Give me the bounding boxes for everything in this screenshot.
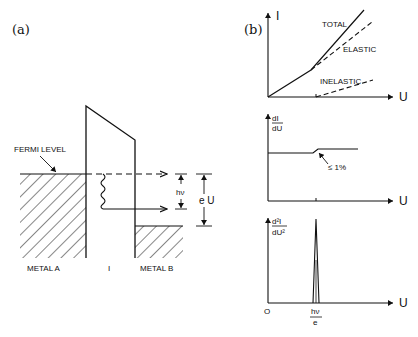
diagram-canvas: (a) FERMI LEVEL hν xyxy=(0,0,418,337)
iv-curve-chart: I U TOTAL ELASTIC INELASTIC xyxy=(268,9,408,104)
iv-y-label: I xyxy=(276,9,279,23)
didu-y-den: dU xyxy=(272,124,282,133)
d2i-x-label: U xyxy=(399,296,408,310)
tunnel-barrier xyxy=(86,106,135,258)
total-label: TOTAL xyxy=(322,20,348,29)
step-pointer-arrow xyxy=(319,153,328,164)
panel-a-label: (a) xyxy=(12,22,30,37)
fermi-level-label: FERMI LEVEL xyxy=(14,145,67,154)
inelastic-label: INELASTIC xyxy=(320,77,362,86)
didu-x-label: U xyxy=(399,194,408,208)
step-annotation: ≤ 1% xyxy=(328,163,346,172)
origin-label: O xyxy=(264,307,270,316)
h-nu-label: hν xyxy=(176,188,184,197)
iv-x-label: U xyxy=(399,90,408,104)
di-du-chart: dI dU U ≤ 1% xyxy=(268,114,408,208)
eu-bracket: e U xyxy=(196,174,215,226)
didu-curve xyxy=(268,149,358,153)
metal-a-label: METAL A xyxy=(27,264,61,273)
metal-b-label: METAL B xyxy=(140,264,173,273)
d2i-y-den: dU² xyxy=(272,228,285,237)
h-nu-bracket: hν xyxy=(175,174,187,209)
panel-b-spectra: (b) I U TOTAL ELASTIC INELASTIC dI dU U xyxy=(244,9,408,327)
fermi-pointer-arrow xyxy=(40,156,56,172)
peak-label-num: hν xyxy=(311,307,319,316)
d2i-du2-chart: d²I dU² U O hν e xyxy=(264,217,408,327)
panel-a-energy-diagram: (a) FERMI LEVEL hν xyxy=(12,22,215,273)
peak-label-den: e xyxy=(313,318,318,327)
elastic-label: ELASTIC xyxy=(343,45,377,54)
didu-y-num: dI xyxy=(272,114,279,123)
insulator-label: I xyxy=(108,264,110,273)
panel-b-label: (b) xyxy=(244,22,262,37)
d2i-y-num: d²I xyxy=(272,217,281,226)
metal-b-filled-states xyxy=(135,226,183,258)
eu-label: e U xyxy=(199,195,215,206)
metal-a-filled-states xyxy=(20,174,86,258)
photon-wavy-line xyxy=(101,174,105,209)
